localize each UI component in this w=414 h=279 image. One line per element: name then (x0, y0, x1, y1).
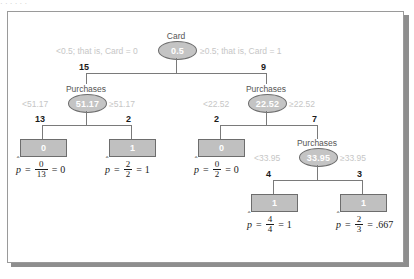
phat-symbol: ˆ p (16, 164, 22, 175)
level1-right-drop (266, 73, 267, 84)
level1-connector (86, 73, 266, 74)
hat-accent: ˆ (105, 158, 109, 164)
purchases-right-split-node[interactable]: 22.52 (248, 94, 287, 113)
leaf-1-4-drop (273, 180, 274, 194)
leaf-0-2-drop (220, 125, 221, 139)
equals-sign: = (22, 164, 34, 175)
fraction: 0 13 (35, 160, 48, 179)
purchases-right-left-count: 2 (214, 114, 219, 124)
numerator: 4 (266, 215, 275, 224)
root-right-count: 9 (261, 62, 266, 72)
purchases-right-left-condition: <22.52 (203, 99, 229, 109)
level2-right-connector (220, 125, 317, 126)
hat-accent: ˆ (16, 158, 20, 164)
p-letter: p (105, 164, 110, 175)
figure-panel: Card <0.5; that is, Card = 0 0.5 ≥0.5; t… (7, 11, 404, 263)
purchases-right-right-count: 7 (312, 114, 317, 124)
leaf-1-2-drop (131, 125, 132, 139)
purchases-deep-split-node[interactable]: 33.95 (299, 148, 338, 167)
fraction: 2 3 (355, 215, 364, 234)
hat-accent: ˆ (336, 213, 340, 219)
purchases-left-right-condition: ≥51.17 (109, 99, 135, 109)
purchases-left-split-node[interactable]: 51.17 (68, 94, 107, 113)
figure-canvas: · · · · · · Card <0.5; that is, Card = 0… (0, 0, 414, 279)
fraction: 4 4 (266, 215, 275, 234)
result-equals-sign: = (49, 164, 61, 175)
tree-diagram: Card <0.5; that is, Card = 0 0.5 ≥0.5; t… (8, 12, 403, 262)
root-right-condition: ≥0.5; that is, Card = 1 (200, 46, 281, 56)
hat-accent: ˆ (194, 158, 198, 164)
root-left-condition: <0.5; that is, Card = 0 (56, 46, 138, 56)
phat-result: 1 (145, 164, 150, 175)
phat-symbol: ˆ p (194, 164, 200, 175)
numerator: 0 (37, 160, 46, 169)
leaf-node-1-2[interactable]: 1 (109, 139, 156, 157)
purchases-deep-right-count: 3 (357, 169, 362, 179)
phat-symbol: ˆ p (247, 219, 253, 230)
leaf-node-1-4[interactable]: 1 (251, 194, 298, 212)
purchases-right-right-condition: ≥22.52 (289, 99, 315, 109)
p-letter: p (16, 164, 21, 175)
result-equals-sign: = (133, 164, 145, 175)
root-left-count: 15 (79, 62, 89, 72)
purchases-left-attribute-label: Purchases (56, 84, 116, 94)
denominator: 2 (213, 169, 222, 179)
phat-result: 0 (60, 164, 65, 175)
equals-sign: = (200, 164, 212, 175)
numerator: 2 (124, 160, 133, 169)
purchases-left-condition: <51.17 (22, 99, 48, 109)
phat-result: 0 (234, 164, 239, 175)
phat-symbol: ˆ p (336, 219, 342, 230)
purchases-right-stem (266, 111, 267, 125)
clipped-caption-fragment: · · · · · · (0, 0, 414, 8)
phat-symbol: ˆ p (105, 164, 111, 175)
fraction: 0 2 (213, 160, 222, 179)
p-letter: p (194, 164, 199, 175)
p-letter: p (336, 219, 341, 230)
purchases-deep-drop (317, 125, 318, 139)
purchases-deep-left-condition: <33.95 (254, 153, 280, 163)
phat-result: 1 (287, 219, 292, 230)
phat-formula-1-4: ˆ p = 4 4 = 1 (247, 215, 292, 234)
purchases-left-stem (86, 111, 87, 125)
root-attribute-label: Card (146, 31, 206, 41)
purchases-deep-right-condition: ≥33.95 (340, 153, 366, 163)
purchases-left-left-count: 13 (35, 114, 45, 124)
leaf-node-1-3[interactable]: 1 (340, 194, 387, 212)
level2-left-connector (42, 125, 131, 126)
leaf-1-3-drop (362, 180, 363, 194)
phat-formula-1-3: ˆ p = 2 3 = .667 (336, 215, 393, 234)
numerator: 2 (355, 215, 364, 224)
result-equals-sign: = (364, 219, 376, 230)
result-equals-sign: = (222, 164, 234, 175)
equals-sign: = (253, 219, 265, 230)
denominator: 2 (124, 169, 133, 179)
level1-left-drop (86, 73, 87, 84)
denominator: 3 (355, 224, 364, 234)
phat-formula-0-13: ˆ p = 0 13 = 0 (16, 160, 65, 179)
purchases-deep-stem (317, 165, 318, 180)
leaf-node-0-2[interactable]: 0 (198, 139, 245, 157)
root-stem (176, 58, 177, 73)
fraction: 2 2 (124, 160, 133, 179)
leaf-node-0-13[interactable]: 0 (20, 139, 67, 157)
leaf-0-13-drop (42, 125, 43, 139)
purchases-right-attribute-label: Purchases (236, 84, 296, 94)
equals-sign: = (342, 219, 354, 230)
denominator: 13 (35, 169, 48, 179)
result-equals-sign: = (275, 219, 287, 230)
phat-formula-1-2: ˆ p = 2 2 = 1 (105, 160, 150, 179)
purchases-left-right-count: 2 (126, 114, 131, 124)
root-split-node[interactable]: 0.5 (158, 41, 197, 60)
purchases-deep-left-count: 4 (266, 169, 271, 179)
purchases-deep-attribute-label: Purchases (287, 138, 347, 148)
equals-sign: = (111, 164, 123, 175)
phat-formula-0-2: ˆ p = 0 2 = 0 (194, 160, 239, 179)
p-letter: p (247, 219, 252, 230)
phat-result: .667 (376, 219, 394, 230)
hat-accent: ˆ (247, 213, 251, 219)
denominator: 4 (266, 224, 275, 234)
level3-connector (273, 180, 362, 181)
numerator: 0 (213, 160, 222, 169)
